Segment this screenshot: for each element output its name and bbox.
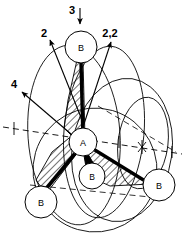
atom-B-right: B (143, 169, 175, 201)
axis-label-2: 2 (41, 27, 47, 39)
atom-B-front: B (79, 163, 105, 189)
atom-B-left: B (25, 186, 57, 218)
atom-B-right-label: B (156, 181, 162, 191)
atom-B-top-label: B (78, 43, 84, 53)
atom-B-top: B (65, 31, 97, 63)
axis-label-3: 3 (69, 4, 75, 16)
molecular-symmetry-figure: B A B B B 3 2 2,2 4 (0, 0, 185, 248)
axis-label-4: 4 (11, 78, 18, 90)
axis-label-2-2: 2,2 (102, 27, 117, 39)
atom-B-left-label: B (38, 198, 44, 208)
atom-group: B A B B B (25, 31, 175, 218)
atom-A: A (69, 128, 97, 156)
atom-A-label: A (80, 138, 86, 148)
atom-B-front-label: B (89, 172, 95, 182)
tick-star (138, 140, 146, 154)
